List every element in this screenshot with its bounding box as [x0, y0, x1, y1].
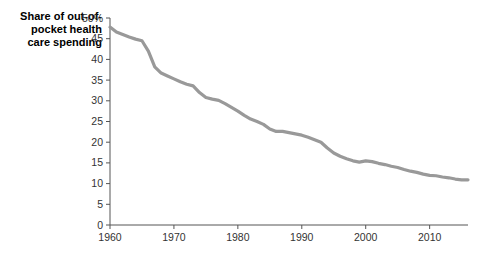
y-tick-label: 35 — [91, 74, 103, 86]
y-tick-label: 20 — [91, 136, 103, 148]
y-axis-ticks: 05101520253035404550% — [82, 12, 110, 231]
y-tick-label: 45 — [91, 32, 103, 44]
x-axis-ticks: 196019701980199020002010 — [98, 225, 441, 243]
y-tick-label: 25 — [91, 115, 103, 127]
y-tick-label: 40 — [91, 53, 103, 65]
x-tick-label: 1990 — [290, 231, 314, 243]
x-tick-label: 2010 — [418, 231, 442, 243]
y-tick-label: 50% — [82, 12, 103, 24]
data-series-line — [110, 27, 468, 180]
x-tick-label: 1980 — [226, 231, 250, 243]
y-tick-label: 0 — [97, 219, 103, 231]
x-tick-label: 1970 — [162, 231, 186, 243]
chart-container: Share of out-of- pocket health care spen… — [0, 0, 479, 266]
y-tick-label: 15 — [91, 156, 103, 168]
y-tick-label: 10 — [91, 177, 103, 189]
x-tick-label: 2000 — [354, 231, 378, 243]
line-chart-plot: 05101520253035404550% 196019701980199020… — [0, 0, 479, 266]
y-tick-label: 5 — [97, 198, 103, 210]
x-tick-label: 1960 — [98, 231, 122, 243]
y-tick-label: 30 — [91, 94, 103, 106]
